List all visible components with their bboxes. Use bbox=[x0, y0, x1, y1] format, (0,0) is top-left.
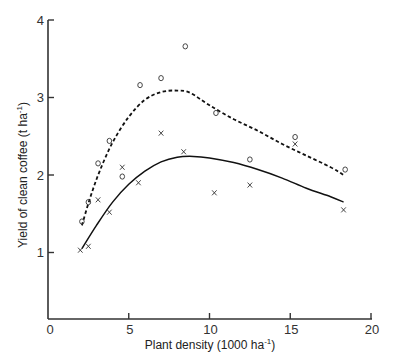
circle-marker bbox=[96, 161, 101, 166]
circle-marker bbox=[343, 167, 348, 172]
circle-marker bbox=[214, 110, 219, 115]
cross-marker bbox=[120, 165, 125, 170]
circle-marker bbox=[86, 200, 91, 205]
y-ticks: 1234 bbox=[37, 13, 54, 261]
cross-marker bbox=[86, 244, 91, 249]
circle-marker bbox=[183, 44, 188, 49]
cross-marker bbox=[159, 131, 164, 136]
x-tick-label: 0 bbox=[46, 322, 53, 337]
cross-marker bbox=[212, 190, 217, 195]
cross-marker bbox=[96, 197, 101, 202]
x-ticks: 05101520 bbox=[46, 313, 379, 337]
x-tick-label: 20 bbox=[365, 322, 379, 337]
cross-marker bbox=[293, 142, 298, 147]
circle-marker bbox=[120, 174, 125, 179]
circle-marker bbox=[107, 138, 112, 143]
cross-marker bbox=[136, 180, 141, 185]
cross-marker bbox=[341, 207, 346, 212]
cross-marker bbox=[181, 149, 186, 154]
circle-marker bbox=[248, 157, 253, 162]
yield-vs-density-chart: 1234 05101520 Plant density (1000 ha-1) … bbox=[0, 0, 394, 364]
axes bbox=[48, 20, 372, 319]
y-axis-title: Yield of clean coffee (t ha-1) bbox=[15, 102, 30, 248]
x-tick-label: 15 bbox=[284, 322, 298, 337]
fit-lines bbox=[82, 90, 344, 248]
y-tick-label: 1 bbox=[37, 245, 44, 260]
circle-marker bbox=[159, 76, 164, 81]
y-tick-label: 4 bbox=[37, 13, 44, 28]
x-tick-label: 5 bbox=[126, 322, 133, 337]
cross-marker bbox=[107, 210, 112, 215]
cross-marker bbox=[248, 183, 253, 188]
cross-marker bbox=[78, 248, 83, 253]
circle-marker bbox=[138, 83, 143, 88]
x-tick-label: 10 bbox=[203, 322, 217, 337]
circle-marker bbox=[293, 134, 298, 139]
y-tick-label: 2 bbox=[37, 168, 44, 183]
x-axis-title: Plant density (1000 ha-1) bbox=[145, 337, 276, 352]
y-tick-label: 3 bbox=[37, 90, 44, 105]
solid-fit-line bbox=[82, 156, 344, 248]
data-points bbox=[78, 44, 347, 253]
